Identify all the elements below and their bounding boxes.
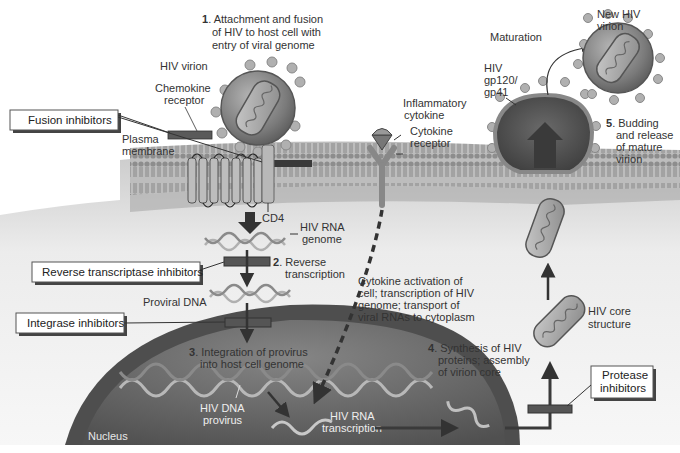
hiv-rna-transcription-label-1: HIV RNA — [330, 410, 375, 422]
cytokine-activation-label-1: Cytokine activation of — [358, 275, 463, 287]
rt-inhibitors-label: Reverse transcriptase inhibitors — [42, 266, 203, 278]
gp120-label-2: gp120/ — [484, 74, 519, 86]
plasma-membrane-label-2: membrane — [122, 145, 175, 157]
maturation-label: Maturation — [490, 31, 542, 43]
cytokine-receptor-label-1: Cytokine — [410, 125, 453, 137]
svg-text:proteins; assembly: proteins; assembly — [438, 354, 530, 366]
gp120-label-1: HIV — [484, 62, 503, 74]
hiv-rna-genome-label-1: HIV RNA — [300, 221, 345, 233]
svg-text:of HIV to host cell with: of HIV to host cell with — [212, 26, 321, 38]
inflammatory-cytokine-label-2: cytokine — [404, 109, 444, 121]
hiv-virion-label: HIV virion — [160, 60, 208, 72]
new-hiv-virion-label-1: New HIV — [597, 8, 641, 20]
hiv-dna-provirus-label-1: HIV DNA — [200, 402, 245, 414]
fusion-inhibitors-label: Fusion inhibitors — [28, 114, 112, 126]
svg-text:transcription: transcription — [285, 268, 345, 280]
proviral-dna-label: Proviral DNA — [143, 296, 207, 308]
svg-text:4. Synthesis of HIV: 4. Synthesis of HIV — [428, 342, 522, 354]
hiv-lifecycle-diagram: Nucleus CD4 — [0, 0, 680, 453]
step-1-label: 1. Attachment and fusion of HIV to host … — [202, 13, 323, 51]
nucleus-label: Nucleus — [88, 430, 128, 442]
svg-text:entry of viral genome: entry of viral genome — [212, 39, 315, 51]
hiv-rna-genome-label-2: genome — [302, 233, 342, 245]
svg-text:of mature: of mature — [616, 141, 662, 153]
hiv-core-structure-label-1: HIV core — [588, 305, 631, 317]
gp120-label-3: gp41 — [484, 86, 508, 98]
step-3-label: 3. Integration of provirus into host cel… — [189, 346, 308, 370]
hiv-core-structure-label-2: structure — [588, 318, 631, 330]
cytokine-activation-label-4: viral RNAs to cytoplasm — [358, 311, 475, 323]
svg-text:of virion core: of virion core — [438, 366, 501, 378]
cd4-label: CD4 — [262, 212, 284, 224]
hiv-rna-transcription-label-2: transcription — [322, 422, 382, 434]
cytokine-receptor-label-2: receptor — [410, 137, 451, 149]
hiv-dna-provirus-label-2: provirus — [203, 414, 243, 426]
integrase-inhibitors-label: Integrase inhibitors — [27, 317, 124, 329]
cytokine-activation-label-2: cell; transcription of HIV — [358, 287, 475, 299]
plasma-membrane-label-1: Plasma — [122, 133, 160, 145]
svg-text:1. Attachment and fusion: 1. Attachment and fusion — [202, 13, 323, 25]
maturation-arrow — [547, 48, 585, 95]
inflammatory-cytokine-label-1: Inflammatory — [403, 97, 467, 109]
svg-text:into host cell genome: into host cell genome — [200, 358, 304, 370]
protease-inhibitors-label-2: inhibitors — [600, 382, 646, 394]
svg-text:2. Reverse: 2. Reverse — [273, 256, 326, 268]
svg-text:and release: and release — [616, 129, 674, 141]
chemokine-receptor-label-1: Chemokine — [155, 82, 211, 94]
svg-text:3. Integration of provirus: 3. Integration of provirus — [189, 346, 308, 358]
cytokine-activation-label-3: genome; transport of — [358, 299, 460, 311]
svg-text:virion: virion — [616, 153, 642, 165]
reverse-transcriptase-inhibitors-box: Reverse transcriptase inhibitors — [32, 262, 224, 285]
protease-inhibitor-bar — [528, 405, 572, 413]
chemokine-receptor-label-2: receptor — [164, 94, 205, 106]
new-hiv-virion-label-2: virion — [597, 20, 623, 32]
svg-text:5. Budding: 5. Budding — [606, 117, 659, 129]
protease-inhibitors-label-1: Protease — [602, 369, 648, 381]
